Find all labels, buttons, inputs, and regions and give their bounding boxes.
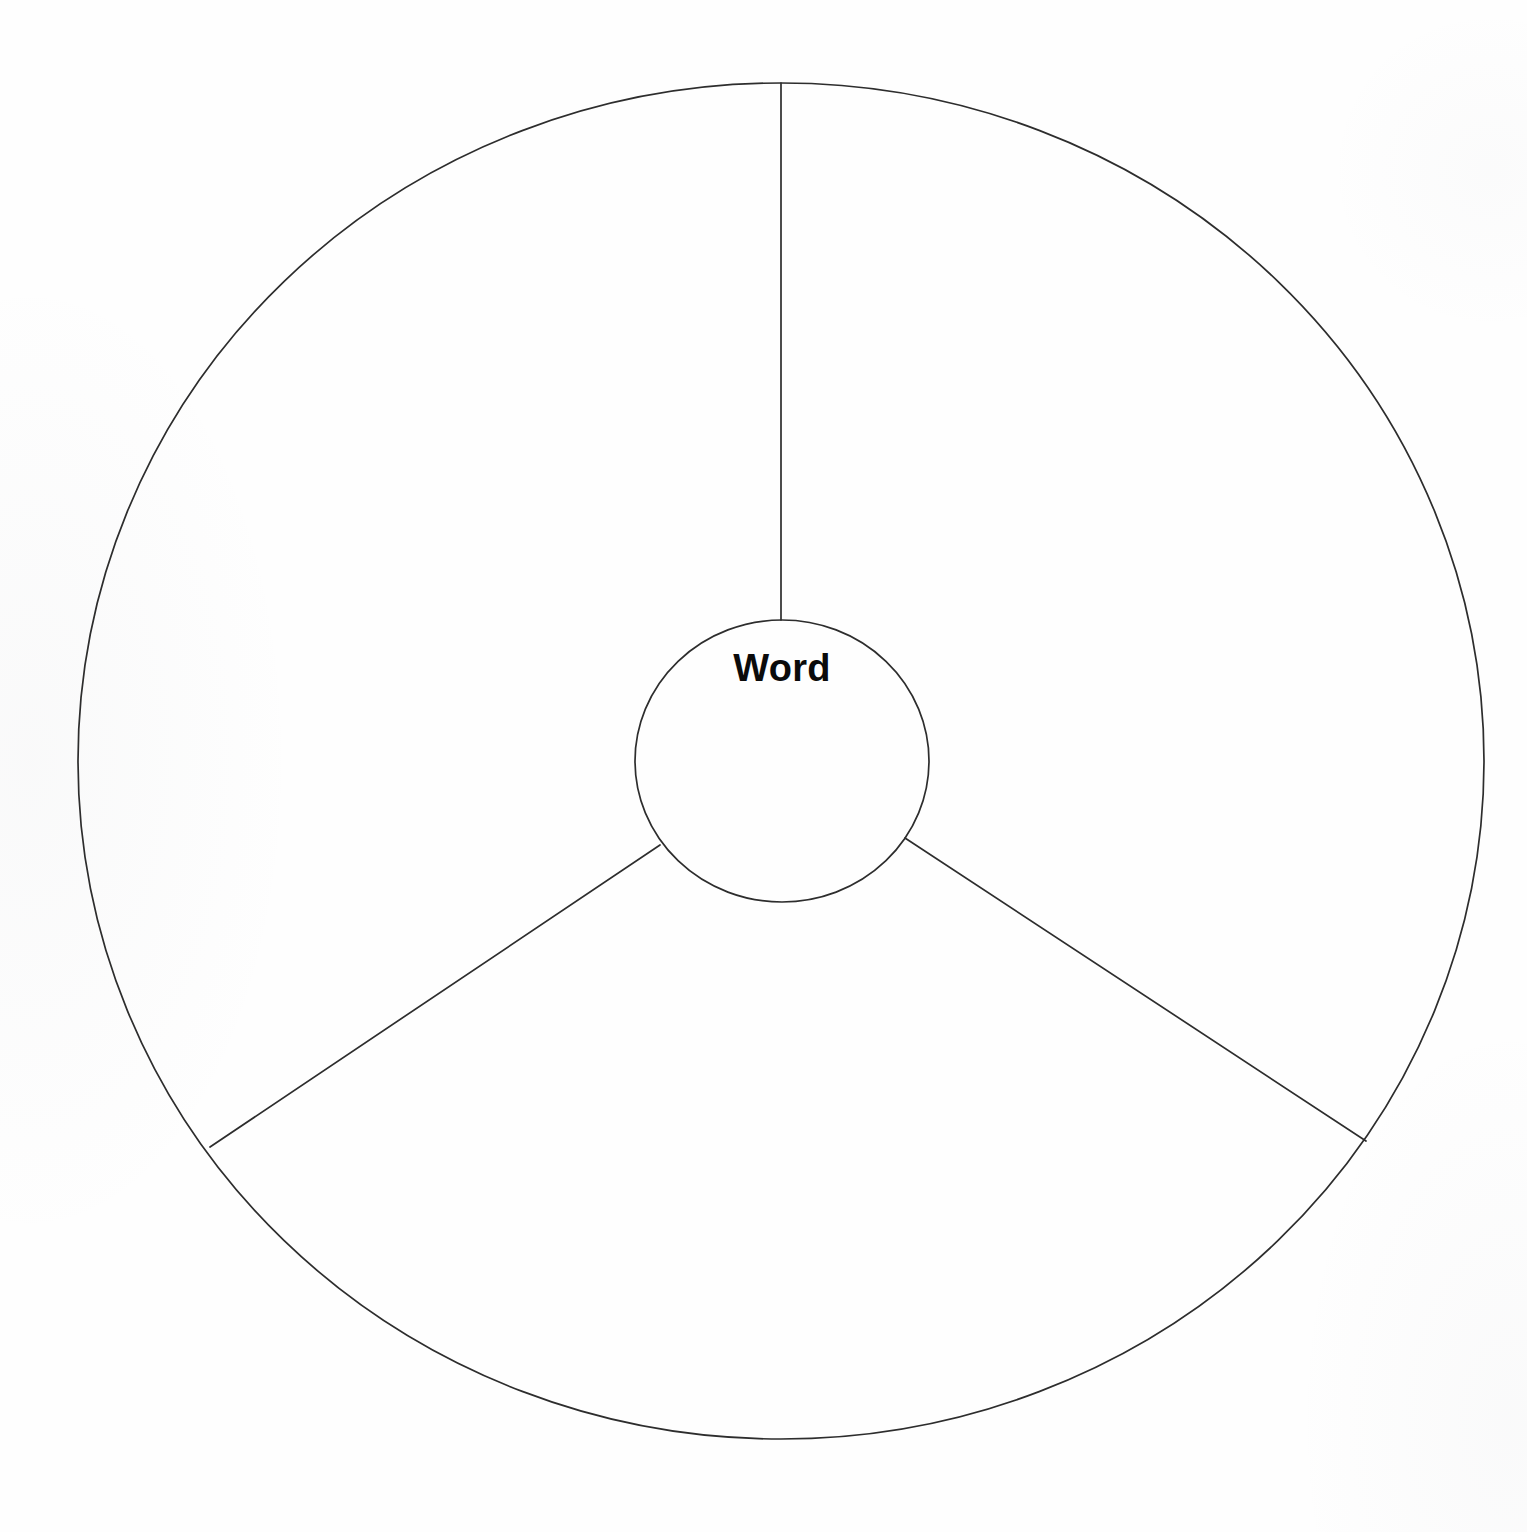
word-web-diagram [0, 0, 1527, 1532]
divider-spoke-lower-right [905, 838, 1366, 1141]
divider-spoke-lower-left [210, 845, 660, 1147]
worksheet-page: Word [0, 0, 1527, 1532]
center-word-label: Word [632, 648, 932, 688]
